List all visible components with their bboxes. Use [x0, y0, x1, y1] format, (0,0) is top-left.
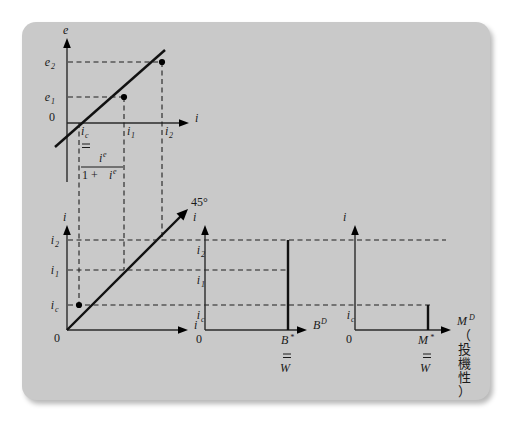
svg-text:2: 2 — [51, 62, 55, 71]
chart3-ytick-i2: i 2 — [197, 243, 205, 259]
chart1-point-i2-e2 — [159, 59, 165, 65]
chart2-ylabel: i — [63, 210, 66, 224]
chart-45-degree: i i 0 45° i 2 i 1 i c — [51, 195, 446, 345]
chart1-y-axis — [63, 38, 71, 182]
svg-text:1: 1 — [131, 131, 135, 140]
chart4-origin-label: 0 — [346, 332, 352, 346]
svg-text:c: c — [55, 305, 59, 314]
svg-text:1: 1 — [55, 270, 59, 279]
svg-text:2: 2 — [201, 250, 205, 259]
chart4-xlabel: M D — [456, 313, 475, 328]
chart3-xtick-bstar: B * — [281, 333, 294, 347]
chart1-expected-return-line — [55, 50, 165, 147]
svg-text:i: i — [51, 263, 54, 277]
svg-text:i: i — [165, 124, 168, 138]
svg-text:i: i — [347, 308, 350, 322]
svg-text:i: i — [51, 233, 54, 247]
figure-panel: e i 0 e 2 e 1 i c i 1 — [22, 22, 490, 400]
figure-root: e i 0 e 2 e 1 i c i 1 — [0, 0, 522, 428]
chart-expected-return: e i 0 e 2 e 1 i c i 1 — [45, 23, 199, 305]
chart1-ytick-e1: e 1 — [45, 90, 55, 106]
svg-text:i: i — [197, 243, 200, 257]
chart2-origin-label: 0 — [54, 331, 60, 345]
svg-text:D: D — [320, 317, 327, 326]
chart2-ytick-ic: i c — [51, 298, 59, 314]
svg-text:c: c — [201, 315, 205, 324]
svg-text:i: i — [197, 273, 200, 287]
chart4-xlabel-note-japanese: （ 投 機 性 ） — [458, 328, 471, 399]
chart-bond-demand: i B D 0 i 2 i 1 i c — [193, 210, 327, 375]
chart1-frac-numerator: i — [99, 151, 102, 165]
svg-text:1: 1 — [51, 97, 55, 106]
chart3-bstar-wealth: W — [280, 361, 291, 375]
svg-text:M: M — [417, 333, 429, 347]
svg-text:D: D — [468, 313, 475, 322]
chart3-xlabel: B D — [313, 317, 327, 332]
svg-text:2: 2 — [169, 131, 173, 140]
chart1-frac-denominator-sup: e — [113, 167, 117, 176]
chart4-mstar-wealth: W — [420, 361, 431, 375]
chart1-origin-label: 0 — [49, 110, 55, 124]
svg-text:c: c — [351, 315, 355, 324]
svg-text:i: i — [197, 308, 200, 322]
chart2-45-label: 45° — [191, 195, 208, 209]
chart3-ylabel: i — [193, 210, 196, 224]
chart1-ic-fraction: i e 1 + i e — [81, 150, 123, 182]
chart2-ytick-i2: i 2 — [51, 233, 59, 249]
diagram-svg: e i 0 e 2 e 1 i c i 1 — [22, 22, 490, 400]
jp-char-0: （ — [458, 328, 471, 343]
svg-text:i: i — [51, 298, 54, 312]
chart3-origin-label: 0 — [196, 332, 202, 346]
chart1-ic-equals-sign — [82, 144, 90, 148]
svg-text:*: * — [290, 333, 294, 342]
jp-char-3: 性 — [458, 370, 471, 385]
chart4-mstar-equals-sign — [423, 354, 431, 358]
jp-char-1: 投 — [458, 342, 471, 357]
chart4-ytick-ic: i c — [347, 308, 355, 324]
chart1-frac-numerator-sup: e — [103, 150, 107, 159]
chart1-xlabel: i — [195, 111, 198, 125]
chart1-point-i1-e1 — [121, 94, 127, 100]
svg-text:2: 2 — [55, 240, 59, 249]
chart1-xtick-ic: i c — [81, 124, 89, 140]
jp-char-2: 機 — [458, 356, 471, 371]
chart1-frac-denominator-i: i — [109, 168, 112, 182]
svg-text:M: M — [456, 314, 468, 328]
chart4-ylabel: i — [343, 210, 346, 224]
chart2-y-axis — [63, 225, 71, 330]
chart4-x-axis — [355, 326, 451, 334]
svg-text:B: B — [313, 318, 321, 332]
chart2-point-ic — [76, 302, 82, 308]
chart2-ytick-i1: i 1 — [51, 263, 59, 279]
chart1-ylabel: e — [63, 23, 69, 37]
chart1-frac-denominator-prefix: 1 + — [82, 168, 98, 182]
chart1-ytick-e2: e 2 — [45, 55, 55, 71]
svg-text:e: e — [45, 55, 51, 69]
svg-text:*: * — [430, 333, 434, 342]
chart4-xtick-mstar: M * — [417, 333, 434, 347]
svg-text:B: B — [281, 333, 289, 347]
chart2-x-axis — [67, 326, 188, 334]
svg-text:e: e — [45, 90, 51, 104]
svg-text:1: 1 — [201, 280, 205, 289]
svg-text:c: c — [85, 131, 89, 140]
chart3-ytick-i1: i 1 — [197, 273, 205, 289]
chart1-xtick-i2: i 2 — [165, 124, 173, 140]
jp-char-4: ） — [458, 384, 471, 399]
svg-text:i: i — [127, 124, 130, 138]
svg-text:i: i — [81, 124, 84, 138]
chart3-bstar-equals-sign — [283, 354, 291, 358]
chart1-xtick-i1: i 1 — [127, 124, 135, 140]
chart3-ytick-ic: i c — [197, 308, 205, 324]
